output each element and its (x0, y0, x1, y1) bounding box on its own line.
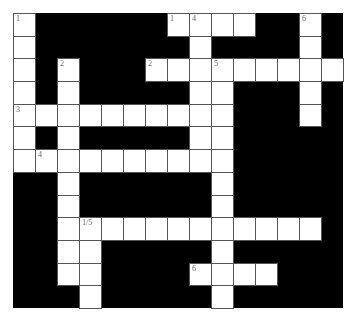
crossword-cell[interactable] (101, 149, 124, 173)
crossword-cell[interactable] (299, 104, 322, 128)
crossword-cell[interactable] (123, 217, 146, 241)
clue-number: 1 (16, 15, 20, 23)
clue-number: 3 (16, 106, 20, 114)
crossword-cell[interactable] (57, 195, 80, 219)
crossword-cell[interactable] (277, 217, 300, 241)
crossword-cell[interactable] (101, 104, 124, 128)
crossword-cell[interactable] (233, 263, 256, 287)
crossword-cell[interactable] (189, 126, 212, 150)
clue-number: 6 (192, 265, 196, 273)
crossword-cell[interactable] (101, 217, 124, 241)
crossword-cell[interactable] (189, 36, 212, 60)
crossword-cell[interactable]: 3 (13, 104, 36, 128)
crossword-cell[interactable] (57, 263, 80, 287)
crossword-cell[interactable] (233, 13, 256, 37)
crossword-cell[interactable] (79, 263, 102, 287)
crossword-cell[interactable] (321, 58, 344, 82)
crossword-grid: 1146225341/56 (13, 13, 343, 308)
crossword-cell[interactable] (211, 263, 234, 287)
crossword-cell[interactable] (255, 58, 278, 82)
crossword-cell[interactable]: 2 (145, 58, 168, 82)
crossword-cell[interactable] (211, 217, 234, 241)
crossword-cell[interactable] (57, 149, 80, 173)
clue-number: 4 (38, 151, 42, 159)
crossword-cell[interactable] (57, 172, 80, 196)
crossword-cell[interactable] (123, 104, 146, 128)
crossword-cell[interactable] (211, 149, 234, 173)
crossword-cell[interactable]: 6 (299, 13, 322, 37)
crossword-cell[interactable] (233, 217, 256, 241)
crossword-cell[interactable]: 5 (211, 58, 234, 82)
crossword-cell[interactable]: 1/5 (79, 217, 102, 241)
crossword-cell[interactable] (211, 126, 234, 150)
crossword-cell[interactable] (211, 240, 234, 264)
crossword-cell[interactable] (299, 36, 322, 60)
clue-number: 1/5 (82, 219, 92, 227)
crossword-cell[interactable] (211, 104, 234, 128)
crossword-cell[interactable] (167, 104, 190, 128)
crossword-cell[interactable]: 1 (167, 13, 190, 37)
crossword-cell[interactable] (211, 13, 234, 37)
clue-number: 5 (214, 60, 218, 68)
crossword-cell[interactable] (145, 149, 168, 173)
crossword-cell[interactable] (13, 36, 36, 60)
crossword-cell[interactable] (57, 217, 80, 241)
crossword-cell[interactable] (233, 58, 256, 82)
clue-number: 4 (192, 15, 196, 23)
crossword-cell[interactable] (211, 285, 234, 309)
crossword-cell[interactable]: 2 (57, 58, 80, 82)
crossword-cell[interactable]: 4 (35, 149, 58, 173)
crossword-cell[interactable] (189, 58, 212, 82)
crossword-cell[interactable] (255, 217, 278, 241)
crossword-cell[interactable]: 1 (13, 13, 36, 37)
crossword-cell[interactable] (13, 58, 36, 82)
crossword-cell[interactable] (145, 217, 168, 241)
crossword-cell[interactable] (79, 104, 102, 128)
crossword-cell[interactable] (167, 58, 190, 82)
crossword-cell[interactable] (255, 263, 278, 287)
crossword-cell[interactable] (299, 217, 322, 241)
crossword-cell[interactable] (299, 58, 322, 82)
clue-number: 2 (60, 60, 64, 68)
crossword-cell[interactable] (13, 81, 36, 105)
crossword-cell[interactable] (79, 285, 102, 309)
crossword-cell[interactable] (123, 149, 146, 173)
crossword-cell[interactable] (189, 149, 212, 173)
crossword-cell[interactable] (57, 240, 80, 264)
crossword-cell[interactable] (211, 195, 234, 219)
crossword-cell[interactable] (189, 104, 212, 128)
crossword-cell[interactable] (35, 104, 58, 128)
crossword-cell[interactable] (189, 81, 212, 105)
crossword-cell[interactable] (57, 104, 80, 128)
crossword-cell[interactable]: 4 (189, 13, 212, 37)
crossword-cell[interactable] (79, 240, 102, 264)
crossword-cell[interactable] (13, 126, 36, 150)
crossword-cell[interactable] (167, 217, 190, 241)
crossword-cell[interactable] (13, 149, 36, 173)
clue-number: 1 (170, 15, 174, 23)
clue-number: 2 (148, 60, 152, 68)
crossword-cell[interactable] (211, 81, 234, 105)
crossword-cell[interactable]: 6 (189, 263, 212, 287)
crossword-cell[interactable] (299, 81, 322, 105)
crossword-cell[interactable] (189, 217, 212, 241)
crossword-cell[interactable] (145, 104, 168, 128)
crossword-cell[interactable] (277, 58, 300, 82)
crossword-cell[interactable] (167, 149, 190, 173)
clue-number: 6 (302, 15, 306, 23)
crossword-cell[interactable] (211, 172, 234, 196)
crossword-cell[interactable] (57, 126, 80, 150)
crossword-cell[interactable] (79, 149, 102, 173)
crossword-cell[interactable] (57, 81, 80, 105)
